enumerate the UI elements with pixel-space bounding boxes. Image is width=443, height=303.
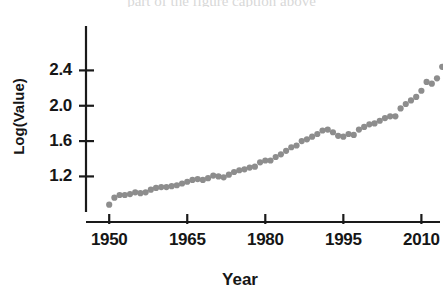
x-tick-label: 2010 <box>391 230 443 250</box>
data-point <box>247 164 253 170</box>
x-tick-label: 1980 <box>235 230 295 250</box>
data-point <box>418 88 424 94</box>
data-point <box>153 185 159 191</box>
chart-figure: part of the figure caption above 1.21.62… <box>0 0 443 303</box>
y-tick-label: 1.2 <box>26 166 72 186</box>
data-point <box>215 173 221 179</box>
data-point <box>403 101 409 107</box>
data-point <box>189 177 195 183</box>
data-point <box>283 148 289 154</box>
data-point <box>163 184 169 190</box>
data-point <box>408 97 414 103</box>
data-point <box>278 151 284 157</box>
data-point <box>169 183 175 189</box>
data-point <box>439 64 443 70</box>
data-point <box>137 190 143 196</box>
data-points-group <box>106 64 443 208</box>
data-point <box>106 202 112 208</box>
x-axis-title: Year <box>160 270 320 290</box>
data-point <box>122 192 128 198</box>
data-point <box>293 142 299 148</box>
data-point <box>319 127 325 133</box>
x-tick-label: 1965 <box>157 230 217 250</box>
data-point <box>314 131 320 137</box>
data-point <box>236 167 242 173</box>
data-point <box>413 94 419 100</box>
data-point <box>252 164 258 170</box>
data-point <box>351 132 357 138</box>
y-tick-label: 2.4 <box>26 60 72 80</box>
data-point <box>195 176 201 182</box>
data-point <box>434 75 440 81</box>
y-axis-title: Log(Value) <box>10 64 27 170</box>
y-tick-label: 1.6 <box>26 131 72 151</box>
data-point <box>392 113 398 119</box>
data-point <box>335 133 341 139</box>
data-point <box>330 129 336 135</box>
data-point <box>132 189 138 195</box>
data-point <box>267 157 273 163</box>
data-point <box>397 105 403 111</box>
y-tick-label: 2.0 <box>26 96 72 116</box>
x-tick-label: 1950 <box>79 230 139 250</box>
data-point <box>210 172 216 178</box>
data-point <box>429 81 435 87</box>
scatter-plot-canvas <box>0 0 443 303</box>
x-tick-label: 1995 <box>313 230 373 250</box>
data-point <box>366 121 372 127</box>
data-point <box>345 131 351 137</box>
